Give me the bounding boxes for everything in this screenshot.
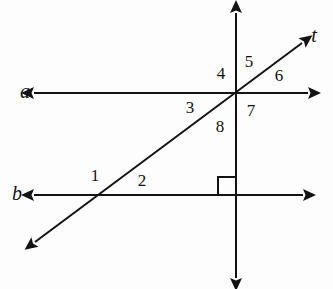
line-a-label: a xyxy=(20,80,30,102)
angle-1-label: 1 xyxy=(91,166,100,185)
angle-label-layer: 12345678 xyxy=(91,52,284,190)
transversal-label: t xyxy=(311,24,317,46)
line-b-label: b xyxy=(12,182,22,204)
angle-5-label: 5 xyxy=(245,52,254,71)
right-angle-icon xyxy=(218,177,236,195)
geometry-canvas: a b t 12345678 xyxy=(0,0,333,289)
angle-4-label: 4 xyxy=(217,64,226,83)
line-a-group: a xyxy=(20,80,308,102)
angle-2-label: 2 xyxy=(138,171,147,190)
angle-3-label: 3 xyxy=(186,98,195,117)
line-t-group: t xyxy=(35,24,317,242)
angle-6-label: 6 xyxy=(275,66,284,85)
angle-8-label: 8 xyxy=(216,117,225,136)
geometry-diagram: a b t 12345678 xyxy=(0,0,333,289)
transversal-line-segment xyxy=(35,43,302,242)
line-b-group: b xyxy=(12,182,303,204)
angle-7-label: 7 xyxy=(247,101,256,120)
